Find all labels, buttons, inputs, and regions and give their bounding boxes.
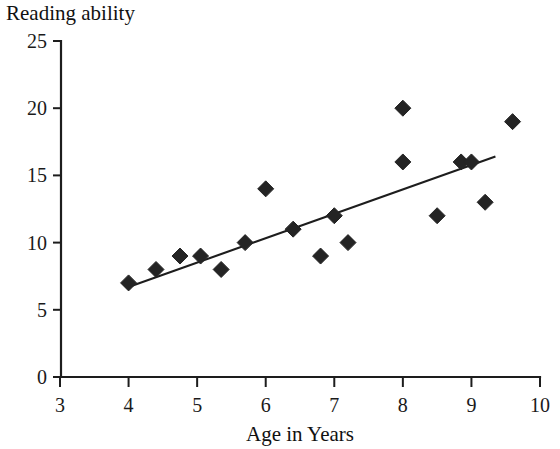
- x-tick-label: 10: [530, 394, 550, 416]
- x-tick-label: 4: [124, 394, 134, 416]
- x-axis-title: Age in Years: [246, 422, 354, 446]
- trend-line: [129, 157, 496, 287]
- x-tick-label: 6: [261, 394, 271, 416]
- x-tick-label: 9: [466, 394, 476, 416]
- data-point-marker: [285, 221, 301, 237]
- data-point-marker: [429, 208, 445, 224]
- chart-title: Reading ability: [6, 1, 135, 25]
- y-tick-label: 5: [37, 299, 47, 321]
- data-point-marker: [477, 194, 493, 210]
- x-tick-label: 3: [55, 394, 65, 416]
- x-tick-label: 5: [192, 394, 202, 416]
- chart-canvas: Reading ability 0510152025 345678910 Age…: [0, 0, 560, 449]
- data-point-marker: [340, 235, 356, 251]
- data-point-markers: [121, 100, 521, 291]
- data-point-marker: [172, 248, 188, 264]
- x-tick-label: 8: [398, 394, 408, 416]
- data-point-marker: [326, 208, 342, 224]
- y-tick-label: 15: [27, 164, 47, 186]
- x-axis: 345678910: [55, 377, 550, 416]
- data-point-marker: [395, 100, 411, 116]
- y-axis-ticks: 0510152025: [27, 30, 61, 388]
- y-tick-label: 25: [27, 30, 47, 52]
- data-point-marker: [213, 261, 229, 277]
- y-tick-label: 20: [27, 97, 47, 119]
- data-point-marker: [395, 154, 411, 170]
- x-axis-ticks: 345678910: [55, 377, 550, 416]
- y-tick-label: 10: [27, 232, 47, 254]
- data-point-marker: [258, 181, 274, 197]
- trend-line-group: [129, 157, 496, 287]
- x-tick-label: 7: [329, 394, 339, 416]
- data-point-marker: [121, 275, 137, 291]
- data-point-marker: [193, 248, 209, 264]
- reading-ability-scatter-chart: Reading ability 0510152025 345678910 Age…: [0, 0, 560, 449]
- data-point-marker: [313, 248, 329, 264]
- y-axis: 0510152025: [27, 30, 61, 388]
- data-point-marker: [505, 114, 521, 130]
- y-tick-label: 0: [37, 366, 47, 388]
